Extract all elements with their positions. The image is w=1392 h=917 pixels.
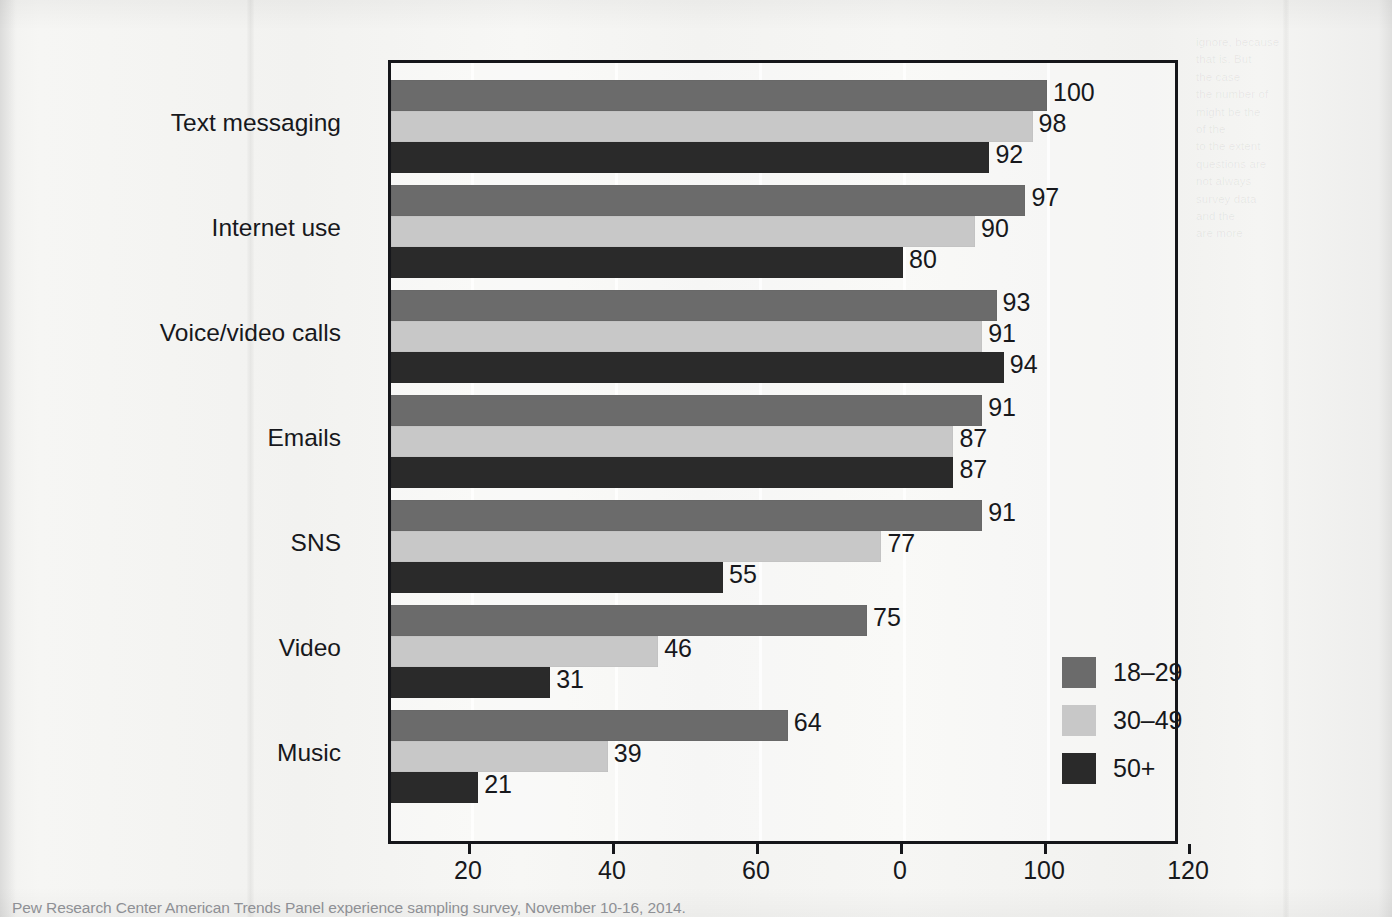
bar-value-label: 93 bbox=[1003, 287, 1031, 318]
y-axis-label-2: Voice/video calls bbox=[0, 321, 360, 346]
y-axis-label-1: Internet use bbox=[0, 216, 360, 241]
legend-swatch-30-49 bbox=[1062, 705, 1096, 736]
bar-2[interactable] bbox=[391, 772, 478, 803]
bar-value-label: 64 bbox=[794, 707, 822, 738]
x-axis-tick bbox=[900, 844, 903, 854]
bar-value-label: 90 bbox=[981, 213, 1009, 244]
bar-group bbox=[391, 395, 1175, 488]
bar-value-label: 46 bbox=[664, 633, 692, 664]
bar-value-label: 94 bbox=[1010, 349, 1038, 380]
y-axis-label-5: Video bbox=[0, 636, 360, 661]
bar-group bbox=[391, 605, 1175, 698]
bar-value-label: 100 bbox=[1053, 77, 1095, 108]
bar-1[interactable] bbox=[391, 216, 975, 247]
legend: 18–29 30–49 50+ bbox=[1062, 648, 1183, 792]
bar-1[interactable] bbox=[391, 111, 1033, 142]
bar-value-label: 77 bbox=[887, 528, 915, 559]
bar-0[interactable] bbox=[391, 500, 982, 531]
legend-label-18-29: 18–29 bbox=[1113, 660, 1183, 685]
x-axis-tick-label: 60 bbox=[742, 858, 770, 883]
bar-value-label: 21 bbox=[484, 769, 512, 800]
bar-2[interactable] bbox=[391, 352, 1004, 383]
y-axis-label-6: Music bbox=[0, 741, 360, 766]
bar-1[interactable] bbox=[391, 321, 982, 352]
bar-value-label: 98 bbox=[1039, 108, 1067, 139]
y-axis-label-0: Text messaging bbox=[0, 111, 360, 136]
bar-group bbox=[391, 500, 1175, 593]
source-caption: Pew Research Center American Trends Pane… bbox=[12, 899, 686, 917]
legend-label-30-49: 30–49 bbox=[1113, 708, 1183, 733]
x-axis-tick-label: 120 bbox=[1167, 858, 1209, 883]
bar-2[interactable] bbox=[391, 562, 723, 593]
bar-2[interactable] bbox=[391, 142, 989, 173]
x-axis-tick-label: 20 bbox=[454, 858, 482, 883]
legend-item-50-plus[interactable]: 50+ bbox=[1062, 744, 1183, 792]
x-axis-tick-label: 100 bbox=[1023, 858, 1065, 883]
bar-value-label: 97 bbox=[1031, 182, 1059, 213]
x-axis-tick bbox=[468, 844, 471, 854]
x-axis: 2040600100120 bbox=[388, 844, 1178, 894]
bar-value-label: 39 bbox=[614, 738, 642, 769]
y-axis-label-3: Emails bbox=[0, 426, 360, 451]
plot-area bbox=[388, 60, 1178, 844]
bar-2[interactable] bbox=[391, 247, 903, 278]
bar-value-label: 87 bbox=[959, 454, 987, 485]
bar-value-label: 80 bbox=[909, 244, 937, 275]
bar-2[interactable] bbox=[391, 457, 953, 488]
bar-0[interactable] bbox=[391, 710, 788, 741]
bar-value-label: 91 bbox=[988, 318, 1016, 349]
bar-chart: Text messagingInternet useVoice/video ca… bbox=[0, 0, 1392, 917]
x-axis-tick-label: 40 bbox=[598, 858, 626, 883]
bar-2[interactable] bbox=[391, 667, 550, 698]
bar-value-label: 92 bbox=[995, 139, 1023, 170]
bar-1[interactable] bbox=[391, 531, 881, 562]
x-axis-tick-label: 0 bbox=[893, 858, 907, 883]
bar-value-label: 87 bbox=[959, 423, 987, 454]
bar-group bbox=[391, 290, 1175, 383]
legend-item-30-49[interactable]: 30–49 bbox=[1062, 696, 1183, 744]
bar-0[interactable] bbox=[391, 395, 982, 426]
x-axis-tick bbox=[1188, 844, 1191, 854]
x-axis-tick bbox=[756, 844, 759, 854]
x-axis-tick bbox=[1044, 844, 1047, 854]
bar-value-label: 55 bbox=[729, 559, 757, 590]
legend-label-50-plus: 50+ bbox=[1113, 756, 1155, 781]
legend-swatch-50-plus bbox=[1062, 753, 1096, 784]
y-axis-label-4: SNS bbox=[0, 531, 360, 556]
bar-value-label: 31 bbox=[556, 664, 584, 695]
bar-value-label: 91 bbox=[988, 392, 1016, 423]
bar-0[interactable] bbox=[391, 290, 997, 321]
bar-0[interactable] bbox=[391, 605, 867, 636]
legend-swatch-18-29 bbox=[1062, 657, 1096, 688]
bar-1[interactable] bbox=[391, 741, 608, 772]
x-axis-tick bbox=[612, 844, 615, 854]
bar-0[interactable] bbox=[391, 80, 1047, 111]
bar-value-label: 91 bbox=[988, 497, 1016, 528]
bar-1[interactable] bbox=[391, 426, 953, 457]
bar-0[interactable] bbox=[391, 185, 1025, 216]
bar-1[interactable] bbox=[391, 636, 658, 667]
bar-value-label: 75 bbox=[873, 602, 901, 633]
legend-item-18-29[interactable]: 18–29 bbox=[1062, 648, 1183, 696]
